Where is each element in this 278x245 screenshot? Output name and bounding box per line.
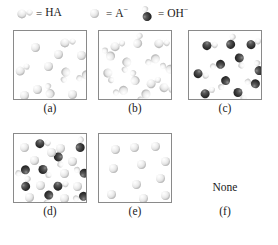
panel-f[interactable]: None(f) (0, 0, 278, 245)
panel-label-f: (f) (188, 205, 262, 217)
figure-root: =HA=A−=OH− (a)(b)(c)(d)(e)None(f) (0, 0, 278, 245)
none-option-text: None (188, 181, 262, 193)
